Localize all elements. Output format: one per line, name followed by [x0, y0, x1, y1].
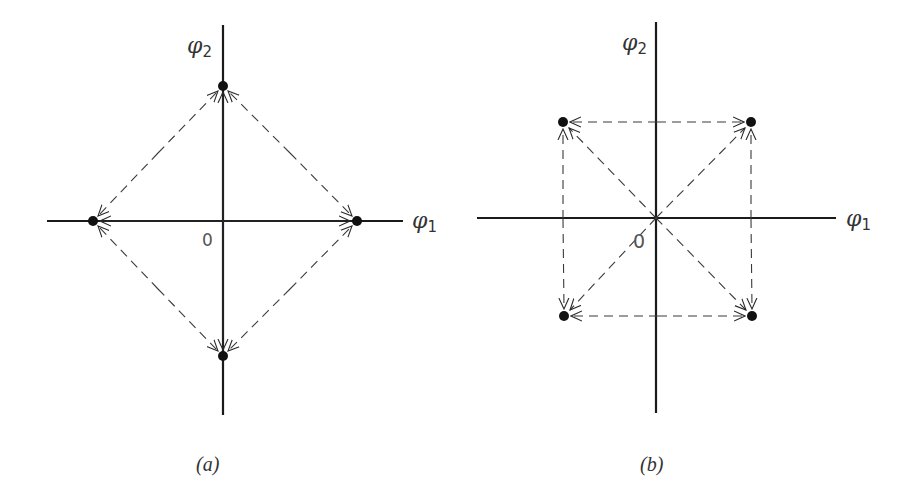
panel-a: φ2 φ1 0 (a)	[47, 25, 437, 476]
flow-mid-tr-to-right	[290, 153, 352, 216]
flow-mid-br-to-bottom	[228, 289, 290, 351]
fixed-point-top	[218, 81, 228, 91]
phi1-label: φ1	[412, 208, 437, 236]
flow-mid-tr-to-top	[228, 91, 290, 153]
flow-origin-to-tr	[656, 128, 745, 218]
flow-mid-bl-to-bottom	[158, 289, 218, 351]
caption-a: (a)	[196, 453, 220, 476]
flow-mid-tl-to-left	[98, 153, 158, 216]
flow-mid-tl-to-top	[158, 91, 218, 153]
flow-origin-to-br	[656, 218, 746, 310]
flow-origin-to-tl	[569, 128, 656, 218]
fixed-point-top-left	[558, 117, 568, 127]
flow-mid-bl-to-left	[98, 226, 158, 289]
fixed-point-bottom-right	[747, 311, 757, 321]
fixed-point-flow-diagram: φ2 φ1 0 (a) φ2	[0, 0, 909, 501]
phi2-label: φ2	[622, 30, 647, 58]
fixed-point-right	[352, 216, 362, 226]
fixed-point-bottom-left	[559, 311, 569, 321]
fixed-point-bottom	[218, 351, 228, 361]
phi1-label: φ1	[846, 206, 871, 234]
flow-mid-br-to-right	[290, 226, 352, 289]
panel-b: φ2 φ1 0 (b)	[477, 22, 871, 476]
phi2-label: φ2	[187, 33, 212, 61]
fixed-point-left	[88, 216, 98, 226]
flow-right-mid-to-br	[751, 219, 752, 309]
origin-label: 0	[202, 230, 213, 250]
fixed-point-top-right	[746, 117, 756, 127]
caption-b: (b)	[640, 453, 664, 476]
origin-label: 0	[633, 230, 645, 252]
flow-left-mid-to-bl	[563, 219, 564, 309]
